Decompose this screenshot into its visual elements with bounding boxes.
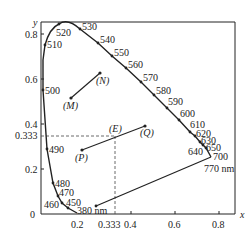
wl-550: 550 (114, 47, 129, 58)
wl-380: 380 nm (77, 205, 108, 216)
wl-580: 580 (156, 85, 171, 96)
x-tick-0.2: 0.2 (71, 219, 84, 230)
x-tick-0.8: 0.8 (212, 219, 225, 230)
wl-530: 530 (82, 21, 97, 32)
x-tick-0.6: 0.6 (168, 219, 181, 230)
wl-770: 770 nm (204, 163, 235, 174)
wl-590: 590 (168, 96, 183, 107)
y-tick-0.333: 0.333 (15, 130, 38, 141)
wl-600: 600 (180, 108, 195, 119)
point-e-label: (E) (109, 123, 122, 135)
point-m-label: (M) (63, 100, 79, 112)
plot-frame (41, 22, 235, 214)
wl-480: 480 (55, 178, 70, 189)
y-tick-0.4: 0.4 (25, 119, 38, 130)
purple-line (96, 157, 211, 206)
point-p-label: (P) (75, 152, 88, 164)
wl-570: 570 (143, 72, 158, 83)
wl-460: 460 (44, 199, 59, 210)
point-q-label: (Q) (140, 127, 155, 139)
y-axis-label: y (32, 17, 38, 28)
cie-chromaticity-diagram: y x 0 0.8 0.6 0.4 0.333 0.2 0.2 0.333 0.… (0, 0, 250, 243)
wl-540: 540 (100, 34, 115, 45)
x-axis-label: x (239, 209, 245, 220)
y-tick-0.2: 0.2 (25, 164, 38, 175)
wl-500: 500 (45, 85, 60, 96)
wl-510: 510 (47, 39, 62, 50)
x-tick-0.333: 0.333 (98, 219, 121, 230)
wl-520: 520 (56, 27, 71, 38)
x-tick-0.4: 0.4 (124, 219, 137, 230)
wl-450: 450 (66, 197, 81, 208)
point-n-label: (N) (96, 75, 110, 87)
y-tick-0.6: 0.6 (25, 74, 38, 85)
wl-640: 640 (188, 146, 203, 157)
y-tick-0.8: 0.8 (25, 29, 38, 40)
origin-label: 0 (30, 209, 35, 220)
wl-490: 490 (49, 144, 64, 155)
wl-560: 560 (128, 59, 143, 70)
wl-700: 700 (213, 151, 228, 162)
